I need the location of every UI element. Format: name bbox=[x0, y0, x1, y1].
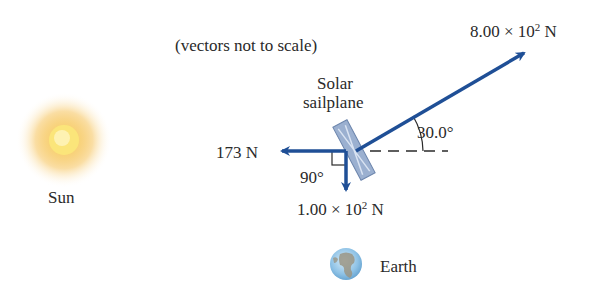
earth-label: Earth bbox=[380, 258, 417, 275]
sun-label: Sun bbox=[48, 189, 74, 206]
label-800N: 8.00 × 102 N bbox=[470, 22, 557, 40]
angle-label-90: 90° bbox=[300, 169, 324, 186]
angle-label-30: 30.0° bbox=[417, 124, 454, 141]
sun-icon bbox=[16, 92, 112, 188]
right-angle-marker bbox=[332, 151, 346, 165]
sailplane-label-line2: sailplane bbox=[303, 94, 363, 111]
label-100N: 1.00 × 102 N bbox=[297, 200, 384, 218]
note-text: (vectors not to scale) bbox=[175, 37, 317, 54]
label-173N: 173 N bbox=[216, 144, 258, 161]
earth-icon bbox=[330, 248, 362, 280]
sailplane-label-line1: Solar bbox=[317, 75, 353, 92]
